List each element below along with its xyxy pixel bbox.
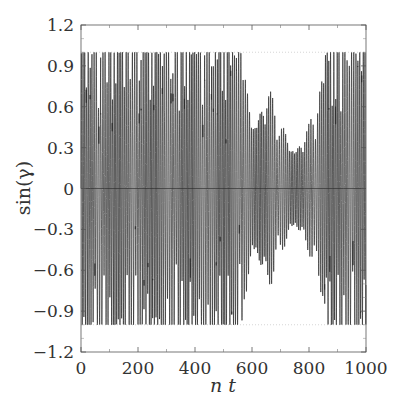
chart: 02004006008001000 −1.2−0.9−0.6−0.300.30.…: [0, 0, 395, 408]
x-tick-label: 400: [179, 358, 211, 378]
x-tick-label: 0: [76, 358, 87, 378]
signal-line: [81, 52, 366, 325]
y-tick-label: −1.2: [33, 342, 74, 362]
y-axis-label: sin(γ): [12, 161, 34, 215]
y-tick-label: −0.3: [33, 219, 74, 239]
series-sin-gamma: [81, 52, 366, 325]
x-tick-label: 200: [122, 358, 154, 378]
y-tick-label: 1.2: [47, 15, 74, 35]
y-tick-label: −0.6: [33, 260, 74, 280]
x-tick-label: 600: [236, 358, 268, 378]
y-tick-label: 0.3: [47, 138, 74, 158]
x-tick-label: 1000: [344, 358, 387, 378]
x-tick-label: 800: [293, 358, 325, 378]
x-axis-label: n t: [210, 374, 236, 396]
y-tick-label: 0: [63, 179, 74, 199]
y-tick-label: 0.9: [47, 56, 74, 76]
y-tick-label: −0.9: [33, 301, 74, 321]
y-tick-label: 0.6: [47, 97, 74, 117]
